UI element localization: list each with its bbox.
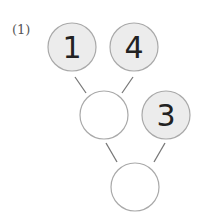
answer-node-bottom[interactable] (111, 163, 159, 211)
connector-line (154, 143, 165, 162)
connector-line (75, 77, 86, 93)
node-3-value: 3 (156, 98, 175, 133)
node-1-value: 1 (62, 30, 81, 65)
number-tree-diagram: 1 4 3 (0, 0, 202, 212)
answer-node-middle[interactable] (80, 91, 128, 139)
connector-line (106, 143, 117, 162)
node-4-value: 4 (124, 30, 143, 65)
connector-line (122, 77, 133, 93)
node-3: 3 (142, 91, 190, 139)
node-4: 4 (110, 23, 158, 71)
node-1: 1 (48, 23, 96, 71)
